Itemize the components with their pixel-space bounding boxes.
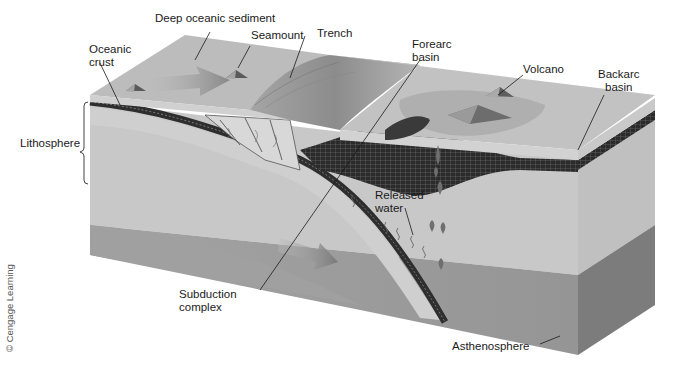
copyright-credit: © Cengage Learning (4, 264, 15, 352)
label-lithosphere: Lithosphere (20, 137, 80, 150)
subduction-diagram: Deep oceanic sediment Seamount Trench Oc… (0, 0, 682, 366)
label-volcano: Volcano (523, 63, 564, 76)
label-backarc-basin: Backarc basin (598, 68, 640, 94)
label-deep-oceanic-sediment: Deep oceanic sediment (155, 12, 275, 25)
label-seamount: Seamount (251, 29, 303, 42)
label-asthenosphere: Asthenosphere (452, 340, 529, 353)
label-oceanic-crust: Oceanic crust (89, 43, 131, 69)
label-released-water: Released water (375, 189, 424, 215)
lithosphere-bracket (80, 102, 88, 184)
label-forearc-basin: Forearc basin (412, 38, 452, 64)
label-trench: Trench (317, 27, 352, 40)
label-subduction-complex: Subduction complex (179, 288, 237, 314)
